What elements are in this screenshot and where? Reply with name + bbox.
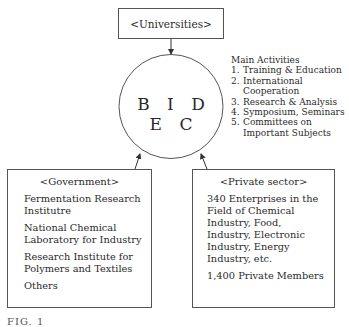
activity-item: 1. Training & Education (231, 65, 349, 75)
private-sector-title: <Private sector> (199, 176, 328, 188)
private-sector-entry: 1,400 Private Members (207, 270, 328, 282)
activity-text: Symposium, Seminars (243, 107, 345, 117)
activity-number: 1. (231, 65, 240, 75)
government-entry: Others (24, 280, 143, 292)
bidec-label: B I D E C (119, 94, 223, 134)
government-entry: Fermentation Research Institutre (24, 193, 143, 217)
government-entry: National Chemical Laboratory for Industr… (24, 222, 143, 246)
activity-item: 4. Symposium, Seminars (231, 107, 349, 117)
private-sector-entry: 340 Enterprises in the Field of Chemical… (207, 193, 328, 265)
private-sector-node: <Private sector> 340 Enterprises in the … (192, 169, 335, 308)
activity-item: 3. Research & Analysis (231, 97, 349, 107)
arrow-government-to-bidec (135, 154, 140, 169)
activity-number: 2. (231, 76, 240, 86)
activity-text: International Cooperation (243, 76, 303, 96)
activity-item: 5. Committees on Important Subjects (231, 117, 349, 138)
universities-label: <Universities> (130, 18, 212, 30)
government-title: <Government> (16, 176, 143, 188)
activity-text: Committees on Important Subjects (243, 117, 331, 137)
arrow-private-to-bidec (201, 154, 207, 169)
government-node: <Government> Fermentation Research Insti… (7, 169, 152, 308)
activity-number: 5. (231, 117, 240, 127)
activity-item: 2. International Cooperation (231, 76, 349, 97)
activity-number: 3. (231, 97, 240, 107)
activity-text: Training & Education (243, 65, 342, 75)
universities-node: <Universities> (118, 8, 224, 39)
figure-caption: FIG. 1 (7, 316, 44, 327)
activity-number: 4. (231, 107, 240, 117)
government-entry: Research Institute for Polymers and Text… (24, 251, 143, 275)
main-activities-list: Main Activities 1. Training & Education … (231, 55, 349, 138)
activities-heading: Main Activities (231, 55, 349, 65)
activity-text: Research & Analysis (243, 97, 337, 107)
